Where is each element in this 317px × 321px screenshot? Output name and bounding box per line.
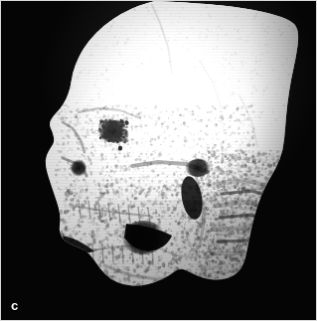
skull-ct-rendering <box>1 1 316 320</box>
panel-label-c: c <box>11 299 18 312</box>
ct-scan-figure-panel: c <box>0 0 317 321</box>
